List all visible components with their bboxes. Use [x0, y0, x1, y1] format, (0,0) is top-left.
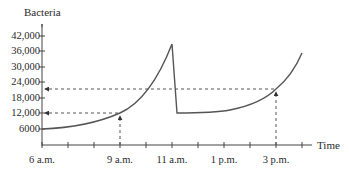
annotation-3pm — [45, 89, 276, 145]
x-tick-label: 11 a.m. — [157, 155, 188, 166]
y-tick-label: 42,000 — [0, 31, 40, 42]
y-tick-label: 12,000 — [0, 108, 40, 119]
x-axis-title: Time — [317, 140, 340, 151]
x-tick-label: 9 a.m. — [107, 155, 133, 166]
y-tick-label: 36,000 — [0, 46, 40, 57]
x-tick-label: 6 a.m. — [29, 155, 55, 166]
bacteria-growth-chart — [0, 0, 349, 176]
y-axis-title: Bacteria — [24, 7, 61, 18]
y-tick-label: 30,000 — [0, 62, 40, 73]
y-tick-label: 18,000 — [0, 93, 40, 104]
y-tick-label: 6000 — [0, 124, 40, 135]
y-tick-label: 24,000 — [0, 77, 40, 88]
bacteria-curve — [42, 44, 302, 129]
x-tick-label: 3 p.m. — [263, 155, 290, 166]
x-tick-label: 1 p.m. — [211, 155, 238, 166]
